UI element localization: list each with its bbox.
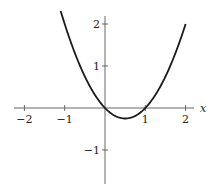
x-tick-label: −2 — [16, 113, 32, 126]
x-tick-label: 2 — [182, 113, 189, 126]
x-tick-label: 1 — [142, 113, 149, 126]
x-tick-label: −1 — [57, 113, 73, 126]
x-axis-label: x — [200, 102, 207, 115]
parabola-curve — [61, 11, 186, 119]
y-tick-label: 2 — [93, 18, 100, 31]
function-plot: −2−112 21−1 x — [0, 0, 215, 184]
y-tick-label: −1 — [84, 144, 100, 157]
y-ticks: 21−1 — [84, 18, 108, 157]
y-tick-label: 1 — [93, 60, 100, 73]
